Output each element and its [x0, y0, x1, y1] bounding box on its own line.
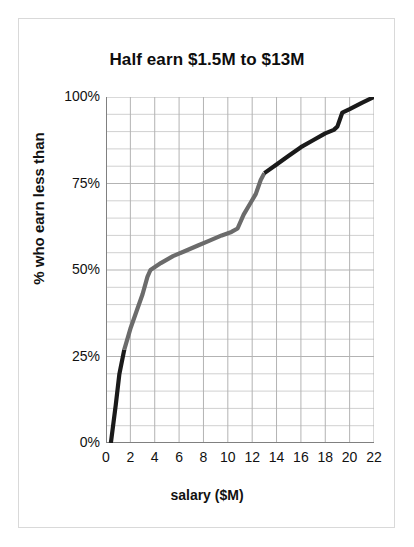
y-tick-label: 75%	[54, 175, 100, 191]
y-axis-title: % who earn less than	[30, 109, 47, 309]
x-axis-tick-labels: 0246810121416182022	[0, 449, 414, 471]
y-tick-label: 100%	[54, 88, 100, 104]
series-segment-lower-tail-dark	[111, 350, 124, 443]
y-tick-label: 25%	[54, 348, 100, 364]
x-axis-title: salary ($M)	[0, 487, 414, 503]
line-chart-svg	[106, 97, 374, 443]
chart-page: Half earn $1.5M to $13M % who earn less …	[0, 0, 414, 547]
series-segment-middle-half-gray	[124, 173, 264, 349]
series-segment-upper-tail-dark	[264, 97, 374, 173]
plot-area	[106, 97, 374, 443]
y-tick-label: 0%	[54, 434, 100, 450]
x-tick-label: 22	[359, 449, 389, 465]
y-tick-label: 50%	[54, 261, 100, 277]
